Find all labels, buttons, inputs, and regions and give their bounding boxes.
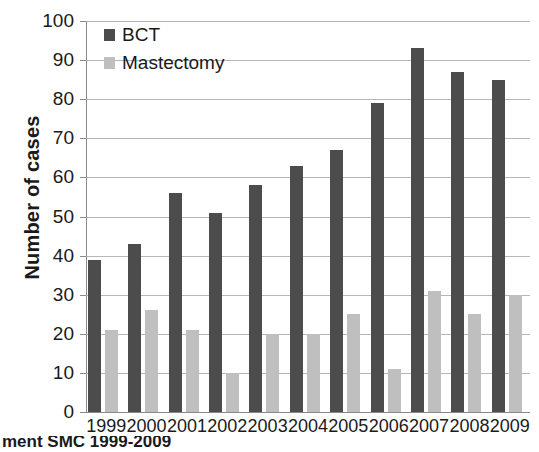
bar-mastectomy-1999 bbox=[105, 330, 118, 412]
chart-legend: BCTMastectomy bbox=[104, 24, 224, 74]
bar-group-2000 bbox=[126, 21, 166, 412]
y-tick-label-50: 50 bbox=[28, 206, 74, 228]
bar-mastectomy-2003 bbox=[266, 334, 279, 412]
figure-caption: ment SMC 1999-2009 bbox=[0, 436, 539, 452]
bar-group-2001 bbox=[167, 21, 207, 412]
bar-mastectomy-2005 bbox=[347, 314, 360, 412]
x-tick-label-2002: 2002 bbox=[205, 416, 249, 437]
x-tick-label-2004: 2004 bbox=[286, 416, 330, 437]
x-tick-label-2000: 2000 bbox=[125, 416, 169, 437]
y-tick-mark-100 bbox=[80, 21, 86, 22]
legend-swatch-mastectomy-icon bbox=[104, 57, 115, 69]
y-tick-label-70: 70 bbox=[28, 127, 74, 149]
gridline-0 bbox=[86, 412, 530, 413]
bar-bct-2009 bbox=[492, 80, 505, 412]
y-tick-label-30: 30 bbox=[28, 284, 74, 306]
bar-bct-2002 bbox=[209, 213, 222, 412]
x-tick-label-2005: 2005 bbox=[326, 416, 370, 437]
bar-mastectomy-2007 bbox=[428, 291, 441, 412]
x-tick-label-1999: 1999 bbox=[84, 416, 128, 437]
x-tick-label-2001: 2001 bbox=[165, 416, 209, 437]
y-tick-mark-30 bbox=[80, 295, 86, 296]
y-tick-mark-20 bbox=[80, 334, 86, 335]
bar-mastectomy-2000 bbox=[145, 310, 158, 412]
bar-group-2007 bbox=[409, 21, 449, 412]
legend-swatch-bct-icon bbox=[104, 29, 115, 41]
x-tick-label-2008: 2008 bbox=[447, 416, 491, 437]
y-tick-label-100: 100 bbox=[28, 10, 74, 32]
y-tick-mark-80 bbox=[80, 99, 86, 100]
x-tick-label-2009: 2009 bbox=[488, 416, 532, 437]
bar-mastectomy-2009 bbox=[509, 295, 522, 412]
bar-bct-2004 bbox=[290, 166, 303, 412]
legend-label-mastectomy: Mastectomy bbox=[122, 52, 224, 74]
y-tick-label-60: 60 bbox=[28, 166, 74, 188]
y-tick-label-80: 80 bbox=[28, 88, 74, 110]
y-tick-mark-40 bbox=[80, 256, 86, 257]
legend-item-mastectomy: Mastectomy bbox=[104, 52, 224, 74]
y-tick-mark-0 bbox=[80, 412, 86, 413]
y-tick-mark-10 bbox=[80, 373, 86, 374]
figure-caption-text: ment SMC 1999-2009 bbox=[2, 436, 171, 452]
bar-group-2009 bbox=[490, 21, 530, 412]
bar-group-2002 bbox=[207, 21, 247, 412]
x-tick-label-2006: 2006 bbox=[367, 416, 411, 437]
bar-bct-2007 bbox=[411, 48, 424, 412]
bar-group-2008 bbox=[449, 21, 489, 412]
bar-mastectomy-2002 bbox=[226, 373, 239, 412]
y-tick-label-0: 0 bbox=[28, 401, 74, 423]
y-tick-label-10: 10 bbox=[28, 362, 74, 384]
bar-bct-2008 bbox=[451, 72, 464, 412]
bar-bct-2005 bbox=[330, 150, 343, 412]
bar-bct-2006 bbox=[371, 103, 384, 412]
y-tick-label-40: 40 bbox=[28, 245, 74, 267]
bar-mastectomy-2006 bbox=[388, 369, 401, 412]
plot-area bbox=[86, 21, 530, 412]
legend-label-bct: BCT bbox=[122, 24, 160, 46]
bar-chart-figure: Number of cases 0102030405060708090100 1… bbox=[0, 0, 539, 452]
y-tick-mark-90 bbox=[80, 60, 86, 61]
bar-bct-2003 bbox=[249, 185, 262, 412]
y-tick-mark-70 bbox=[80, 138, 86, 139]
y-tick-label-90: 90 bbox=[28, 49, 74, 71]
y-tick-label-20: 20 bbox=[28, 323, 74, 345]
y-axis-tick-labels: 0102030405060708090100 bbox=[22, 21, 74, 412]
x-tick-label-2003: 2003 bbox=[246, 416, 290, 437]
bar-group-2005 bbox=[328, 21, 368, 412]
bar-group-2003 bbox=[247, 21, 287, 412]
legend-item-bct: BCT bbox=[104, 24, 224, 46]
bar-bct-1999 bbox=[88, 260, 101, 412]
bar-bct-2000 bbox=[128, 244, 141, 412]
bar-mastectomy-2001 bbox=[186, 330, 199, 412]
y-tick-mark-50 bbox=[80, 217, 86, 218]
bar-group-1999 bbox=[86, 21, 126, 412]
bar-mastectomy-2008 bbox=[468, 314, 481, 412]
bar-group-2006 bbox=[369, 21, 409, 412]
bar-group-2004 bbox=[288, 21, 328, 412]
y-tick-mark-60 bbox=[80, 177, 86, 178]
bar-bct-2001 bbox=[169, 193, 182, 412]
x-tick-label-2007: 2007 bbox=[407, 416, 451, 437]
bar-mastectomy-2004 bbox=[307, 334, 320, 412]
